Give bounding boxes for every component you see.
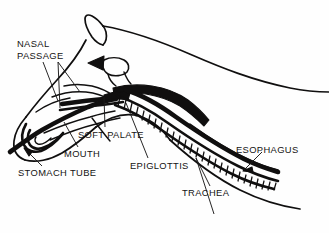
label-stomach-tube: STOMACH TUBE [18,167,96,179]
anatomy-illustration [0,0,329,233]
label-trachea: TRACHEA [182,187,229,199]
leader-trachea-tail [196,158,214,214]
label-esophagus: ESOPHAGUS [236,144,299,156]
leader-trachea [196,158,210,186]
label-nasal-passage: NASAL PASSAGE [17,38,64,61]
label-epiglottis: EPIGLOTTIS [130,160,189,172]
airflow-arrow-icon [88,56,104,70]
epiglottis-structure [103,58,131,86]
anatomy-diagram: NASAL PASSAGE SOFT PALATE MOUTH STOMACH … [0,0,329,233]
leader-mouth [64,122,78,147]
label-soft-palate: SOFT PALATE [78,129,144,141]
label-mouth: MOUTH [64,148,100,160]
ear-shape [85,15,106,45]
